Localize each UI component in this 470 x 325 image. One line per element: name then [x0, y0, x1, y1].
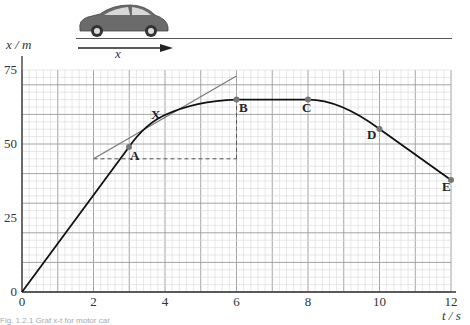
label-d: D	[367, 127, 376, 142]
displacement-label: x	[114, 46, 121, 61]
label-x: X	[151, 107, 161, 122]
arrow-head-icon	[160, 44, 173, 52]
x-tick-labels: 024681012	[19, 294, 458, 309]
car-illustration: x	[76, 5, 452, 61]
y-tick-0: 0	[11, 284, 18, 299]
y-tick-labels: 0255075	[4, 62, 17, 299]
x-tick-10: 10	[373, 294, 386, 309]
x-tick-8: 8	[305, 294, 312, 309]
y-tick-75: 75	[4, 62, 17, 77]
x-axis-label: t / s	[442, 308, 461, 323]
label-c: C	[302, 100, 311, 115]
chart-grid	[22, 70, 451, 292]
label-e: E	[442, 179, 451, 194]
x-tick-2: 2	[90, 294, 97, 309]
x-tick-4: 4	[162, 294, 169, 309]
point-d	[377, 126, 383, 132]
y-axis-label: x / m	[5, 37, 31, 52]
x-tick-6: 6	[233, 294, 240, 309]
y-tick-25: 25	[4, 210, 17, 225]
figure-caption: Fig. 1.2.1 Graf x-t for motor car	[0, 316, 110, 325]
x-tick-0: 0	[19, 294, 26, 309]
data-points	[126, 97, 454, 183]
x-tick-12: 12	[445, 294, 458, 309]
y-tick-50: 50	[4, 136, 17, 151]
label-a: A	[130, 148, 140, 163]
label-b: B	[239, 100, 248, 115]
